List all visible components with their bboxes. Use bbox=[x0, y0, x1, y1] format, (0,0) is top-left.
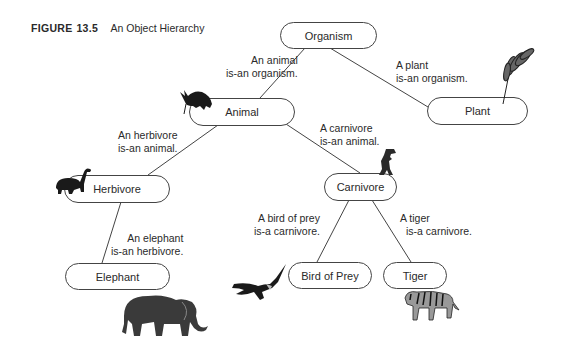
edge-label-carnivore-animal: A carnivore is-an animal. bbox=[320, 122, 380, 148]
armadillo-icon bbox=[178, 86, 214, 116]
edge-label-elephant-herbivore: An elephant is-an herbivore. bbox=[111, 232, 183, 258]
dinosaur-icon bbox=[54, 166, 94, 196]
edge-label-tiger-carnivore: A tiger is-a carnivore. bbox=[400, 212, 472, 238]
elephant-icon bbox=[118, 290, 210, 340]
node-bird-of-prey: Bird of Prey bbox=[288, 262, 372, 289]
node-organism: Organism bbox=[280, 22, 377, 49]
eagle-icon bbox=[230, 262, 288, 302]
edge-label-bird-carnivore: A bird of prey is-a carnivore. bbox=[254, 212, 320, 238]
edge-label-plant-organism: A plant is-an organism. bbox=[396, 59, 468, 85]
tyrannosaurus-icon bbox=[376, 147, 398, 177]
tiger-icon bbox=[403, 288, 463, 324]
edge-bird-carnivore bbox=[317, 200, 349, 262]
wheat-icon bbox=[497, 42, 537, 104]
edge-label-herbivore-animal: An herbivore is-an animal. bbox=[118, 129, 178, 155]
node-carnivore: Carnivore bbox=[324, 173, 397, 201]
edge-label-animal-organism: An animal is-an organism. bbox=[226, 54, 298, 80]
node-tiger: Tiger bbox=[383, 262, 447, 289]
node-elephant: Elephant bbox=[65, 263, 170, 290]
